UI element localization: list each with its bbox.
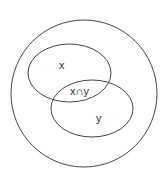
intersection-label: x∩y	[70, 85, 89, 97]
set-y-ellipse	[51, 80, 133, 137]
set-y-label: y	[96, 112, 102, 124]
set-x-label: x	[59, 59, 65, 71]
venn-diagram: x x∩y y	[0, 0, 165, 177]
